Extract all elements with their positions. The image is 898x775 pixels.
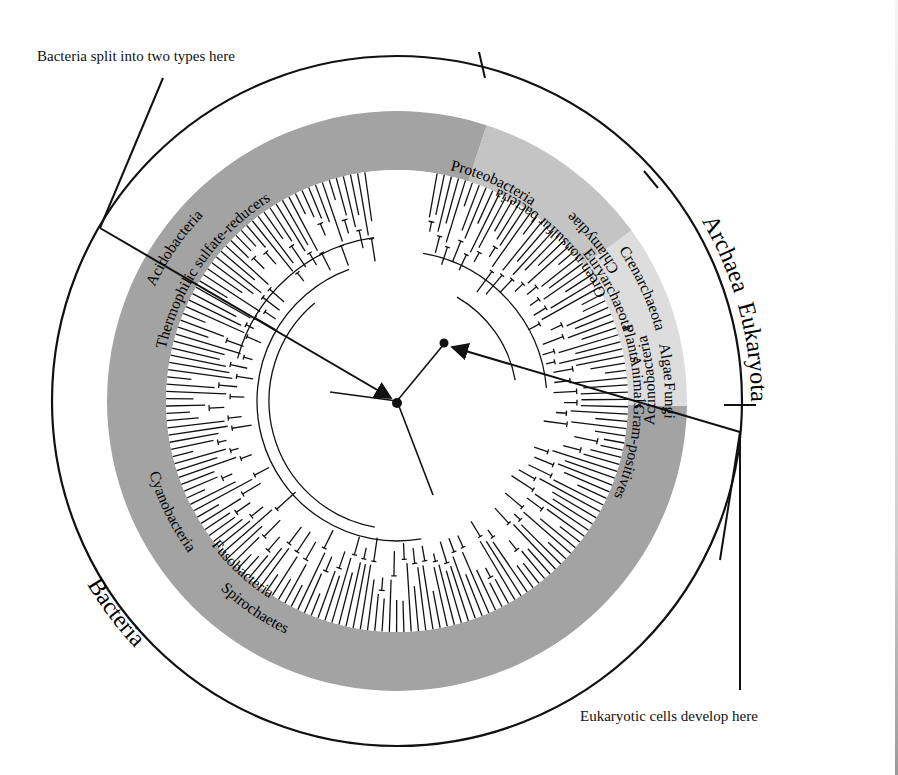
- callout-eukaryotic-cells: Eukaryotic cells develop here: [580, 708, 758, 725]
- callout-bacteria-split: Bacteria split into two types here: [37, 48, 235, 65]
- domain-label-archaea: Archaea: [697, 211, 754, 296]
- root-node: [392, 398, 402, 408]
- domain-label-bacteria: Bacteria: [83, 573, 151, 652]
- group-label-fungi: Fungi: [661, 382, 679, 420]
- eukaryote-archaea-node: [440, 339, 449, 348]
- phylogenetic-tree-diagram: Archaea Eukaryota Bacteria Proteobacteri…: [0, 0, 898, 775]
